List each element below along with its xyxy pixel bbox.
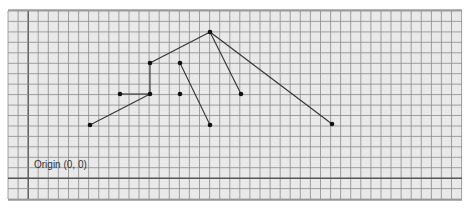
tree-node-c: [118, 92, 123, 97]
tree-node-f: [88, 123, 93, 128]
graph-paper-diagram: Origin (0, 0): [0, 0, 470, 210]
tree-node-i: [330, 122, 335, 127]
tree-node-g: [239, 92, 244, 97]
tree-node-root: [208, 30, 213, 35]
tree-node-h: [208, 123, 213, 128]
tree-node-a: [148, 61, 153, 66]
tree-node-b: [178, 61, 183, 66]
tree-node-d: [148, 92, 153, 97]
origin-label: Origin (0, 0): [34, 159, 87, 170]
tree-node-e: [178, 92, 183, 97]
